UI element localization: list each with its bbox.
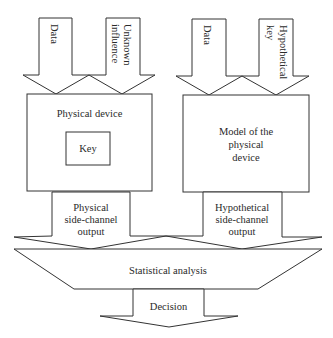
input-label-hypothetical: Hypothetical xyxy=(278,25,289,79)
input-label-influence: influence xyxy=(110,24,121,63)
side-channel-attack-diagram: Data Unknown influence Data Hypothetical… xyxy=(0,0,333,338)
model-label-line-1: Model of the xyxy=(219,126,274,137)
key-label: Key xyxy=(79,143,97,154)
model-label-line-3: device xyxy=(232,152,260,163)
input-arrow-data-right: Data xyxy=(176,19,242,95)
hypothetical-output-line-2: side-channel xyxy=(215,214,268,225)
statistical-analysis-label: Statistical analysis xyxy=(129,265,207,276)
hypothetical-output-line-1: Hypothetical xyxy=(215,202,269,213)
input-label-unknown: Unknown xyxy=(122,24,133,66)
physical-output-line-1: Physical xyxy=(73,202,109,213)
input-arrow-data-left: Data xyxy=(23,18,89,94)
input-arrow-hypothetical-key: Hypothetical key xyxy=(242,19,309,95)
hypothetical-output-line-3: output xyxy=(229,226,256,237)
decision-arrow: Decision xyxy=(100,289,238,327)
physical-device-title: Physical device xyxy=(57,108,123,119)
input-label-data-right: Data xyxy=(202,25,213,45)
physical-output-line-2: side-channel xyxy=(64,214,117,225)
model-label-line-2: physical xyxy=(229,139,264,150)
input-label-data-left: Data xyxy=(49,24,60,44)
physical-output-line-3: output xyxy=(78,226,105,237)
down-arrow-icon xyxy=(89,18,155,94)
physical-device-box: Physical device Key xyxy=(27,94,152,191)
physical-output-arrow: Physical side-channel output xyxy=(14,192,166,249)
decision-label: Decision xyxy=(150,301,188,312)
input-arrow-unknown-influence: Unknown influence xyxy=(89,18,155,94)
input-label-key: key xyxy=(265,25,276,41)
model-device-box: Model of the physical device xyxy=(183,95,309,192)
statistical-analysis-block: Statistical analysis xyxy=(14,249,322,289)
hypothetical-output-arrow: Hypothetical side-channel output xyxy=(166,192,322,249)
